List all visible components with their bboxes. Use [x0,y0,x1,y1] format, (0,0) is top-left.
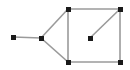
graph-figure-canvas [0,0,130,70]
vertex-g-interior [88,36,93,41]
graph-svg [0,0,130,70]
vertex-c-square-top-left [66,7,71,12]
vertex-a-left-endpoint [11,35,16,40]
vertex-f-square-bottom-right [118,60,123,65]
vertex-e-square-bottom-left [66,60,71,65]
edge-a-b [13,37,41,38]
vertex-d-square-top-right [118,7,123,12]
vertex-b-junction [39,36,44,41]
